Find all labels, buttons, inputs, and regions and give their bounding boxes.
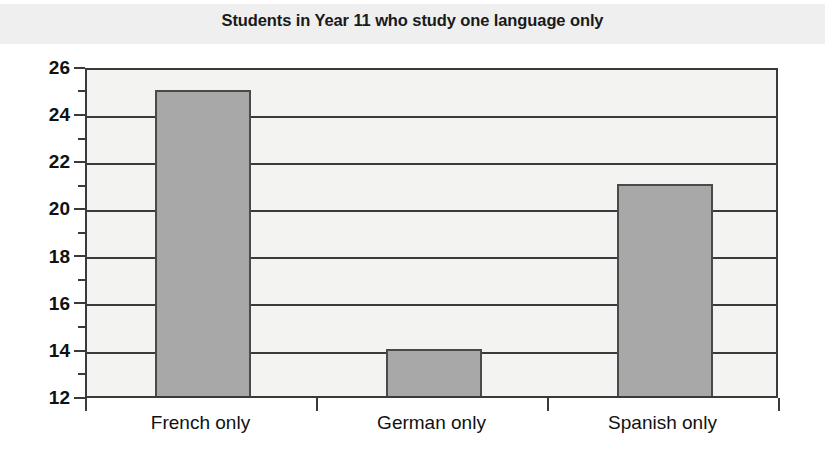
x-tick [85,398,87,411]
bar-german-only [386,349,482,396]
y-tick-minor [78,279,85,281]
y-tick-minor [78,138,85,140]
y-tick-minor [78,185,85,187]
y-tick-major [74,255,85,257]
plot-area [85,68,778,398]
y-tick-major [74,161,85,163]
chart-title: Students in Year 11 who study one langua… [0,11,825,30]
y-axis-label: 14 [30,340,70,362]
y-axis-label: 26 [30,57,70,79]
y-tick-major [74,397,85,399]
y-tick-minor [78,90,85,92]
y-tick-major [74,67,85,69]
y-axis-label: 22 [30,151,70,173]
bar-spanish-only [617,184,713,396]
x-tick [316,398,318,411]
bar-french-only [155,90,251,396]
y-tick-major [74,302,85,304]
y-tick-minor [78,326,85,328]
x-axis-label-spanish-only: Spanish only [547,412,778,434]
y-tick-major [74,350,85,352]
x-tick [778,398,780,411]
x-tick [547,398,549,411]
y-axis-label: 12 [30,387,70,409]
y-tick-minor [78,373,85,375]
y-tick-major [74,208,85,210]
x-axis-label-french-only: French only [85,412,316,434]
y-tick-minor [78,232,85,234]
y-axis-label: 16 [30,293,70,315]
y-axis-label: 18 [30,246,70,268]
y-axis-label: 20 [30,198,70,220]
y-tick-major [74,114,85,116]
x-axis-label-german-only: German only [316,412,547,434]
y-axis-label: 24 [30,104,70,126]
bar-chart-figure: Students in Year 11 who study one langua… [0,0,825,455]
